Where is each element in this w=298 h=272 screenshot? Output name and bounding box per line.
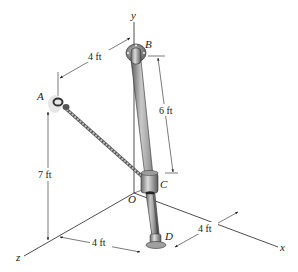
point-label-b: B <box>145 38 152 50</box>
dimension-x-d: 4 ft <box>198 223 212 234</box>
collar-c <box>141 173 158 193</box>
point-label-c: C <box>160 178 168 190</box>
base-d <box>146 242 166 249</box>
statics-diagram: y x z A B C D O 4 ft 6 ft 7 ft 4 ft 4 ft <box>0 0 298 272</box>
point-label-d: D <box>164 230 173 242</box>
dimension-b-c: 6 ft <box>159 105 173 116</box>
dimension-z-d: 4 ft <box>92 237 106 248</box>
axis-label-y: y <box>130 9 136 21</box>
axis-label-x: x <box>279 241 285 253</box>
labels: y x z A B C D O 4 ft 6 ft 7 ft 4 ft 4 ft <box>15 9 285 263</box>
point-label-o: O <box>128 193 136 205</box>
dimension-top-a-b: 4 ft <box>88 51 102 62</box>
point-label-a: A <box>36 90 44 102</box>
dimension-a-height: 7 ft <box>38 169 52 180</box>
z-axis <box>24 193 134 256</box>
axis-label-z: z <box>15 251 21 263</box>
